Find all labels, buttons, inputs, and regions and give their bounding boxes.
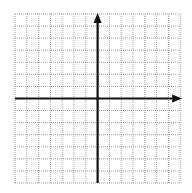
coordinate-plane [0, 0, 192, 193]
background [0, 0, 192, 193]
